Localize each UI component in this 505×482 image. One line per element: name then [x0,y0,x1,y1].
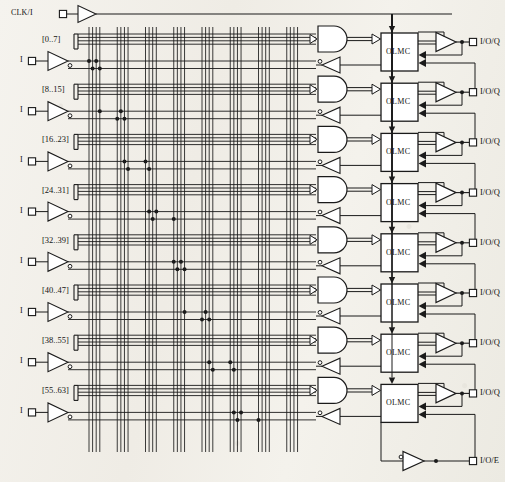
fuse-dot-r3-b [154,210,158,214]
fuse-dot-r6-c [211,368,215,372]
olmc-feedback-arrow-a-2 [419,151,427,159]
fuse-dot-r5-c [200,318,204,322]
olmc-input-arrow-5 [372,285,381,295]
and-gate-3 [318,177,347,203]
fuse-dot-r7-d [257,418,261,422]
feedback-buffer-bubble-3 [318,210,322,214]
oe-buffer-triangle [403,452,424,471]
fuse-dot-r3-a [147,210,151,214]
input-buffer-bubble-3 [68,214,72,218]
io-pad-label-2: I/O/Q [480,137,500,146]
io-pad-1[interactable] [469,89,476,96]
and-gate-6 [318,327,347,353]
fuse-dot-r5-d [207,318,211,322]
feedback-buffer-triangle-6 [322,358,340,374]
olmc-feedback-arrow-b-5 [419,310,427,318]
tristate-buffer-5 [436,284,456,303]
olmc-feedback-arrow-a-4 [419,252,427,260]
input-pin-label-4: I [20,257,23,265]
input-pad-3[interactable] [28,208,35,215]
input-buffer-triangle-4 [48,252,68,271]
and-gate-1 [318,76,347,102]
olmc-input-arrow-4 [372,235,381,245]
io-pad-0[interactable] [469,38,476,45]
term-range-label-0: [0..7] [42,35,60,44]
olmc-feedback-arrow-a-7 [419,402,427,410]
term-range-label-6: [38..55] [42,336,69,345]
io-pad-5[interactable] [469,289,476,296]
fuse-dot-r3-d [172,217,176,221]
olmc-label-1: OLMC [386,98,410,106]
io-pad-6[interactable] [469,340,476,347]
oe-buffer-bubble [399,455,403,459]
term-range-label-3: [24..31] [42,186,69,195]
feedback-buffer-bubble-6 [318,361,322,365]
fuse-dot-r0-b [94,59,98,63]
io-pad-4[interactable] [469,239,476,246]
feedback-buffer-triangle-3 [322,208,340,224]
fuse-dot-r0-d [98,67,102,71]
clk-input-pad[interactable] [59,10,66,17]
fuse-dot-r2-b [144,159,148,163]
olmc-label-0: OLMC [386,48,410,56]
olmc-feedback-arrow-a-6 [419,352,427,360]
input-buffer-triangle-3 [48,202,68,221]
feedback-buffer-triangle-7 [322,408,340,424]
fuse-dot-r2-a [122,159,126,163]
feedback-buffer-triangle-4 [322,258,340,274]
input-buffer-triangle-6 [48,353,68,372]
io-pad-7[interactable] [469,390,476,397]
tristate-buffer-6 [436,334,456,353]
olmc-feedback-arrow-b-6 [419,360,427,368]
input-buffer-bubble-2 [68,164,72,168]
input-pin-label-7: I [20,407,23,415]
olmc-feedback-arrow-b-7 [419,410,427,418]
io-pad-label-5: I/O/Q [480,288,500,297]
olmc-feedback-arrow-b-2 [419,159,427,167]
gal-logic-diagram [0,0,505,482]
input-pad-2[interactable] [28,158,35,165]
input-pad-0[interactable] [28,57,35,64]
olmc-input-arrow-2 [372,134,381,144]
input-pin-label-6: I [20,357,23,365]
olmc-feedback-arrow-a-0 [419,51,427,59]
and-gate-input-bus-2 [310,135,317,144]
feedback-buffer-triangle-0 [322,57,340,73]
io-enable-pad[interactable] [469,457,476,464]
io-enable-label: I/O/E [480,456,499,465]
input-buffer-triangle-5 [48,303,68,322]
tristate-buffer-0 [436,33,456,52]
input-buffer-triangle-2 [48,152,68,171]
io-pad-2[interactable] [469,139,476,146]
oe-output-junction [434,459,438,463]
clk-buffer-triangle [78,6,96,23]
io-pad-3[interactable] [469,189,476,196]
io-pad-label-1: I/O/Q [480,87,500,96]
fuse-dot-r4-b [179,260,183,264]
input-pad-6[interactable] [28,359,35,366]
input-buffer-triangle-1 [48,102,68,121]
olmc-feedback-arrow-a-5 [419,302,427,310]
input-pad-1[interactable] [28,108,35,115]
fuse-dot-r0-c [91,67,95,71]
io-pad-label-4: I/O/Q [480,238,500,247]
fuse-dot-r6-a [207,360,211,364]
input-buffer-bubble-7 [68,415,72,419]
input-pad-4[interactable] [28,258,35,265]
tristate-buffer-4 [436,233,456,252]
fuse-dot-r0-a [87,59,91,63]
input-pad-7[interactable] [28,409,35,416]
olmc-feedback-arrow-b-0 [419,59,427,67]
term-range-label-5: [40..47] [42,286,69,295]
feedback-buffer-bubble-7 [318,411,322,415]
and-gate-input-bus-1 [310,85,317,94]
input-pad-5[interactable] [28,308,35,315]
feedback-buffer-triangle-2 [322,157,340,173]
input-buffer-bubble-6 [68,365,72,369]
input-buffer-bubble-4 [68,264,72,268]
input-buffer-triangle-0 [48,52,68,71]
olmc-label-7: OLMC [386,399,410,407]
and-gate-input-bus-0 [310,35,317,44]
fuse-dot-r6-b [228,360,232,364]
clk-drop-arrow-7 [389,377,395,384]
